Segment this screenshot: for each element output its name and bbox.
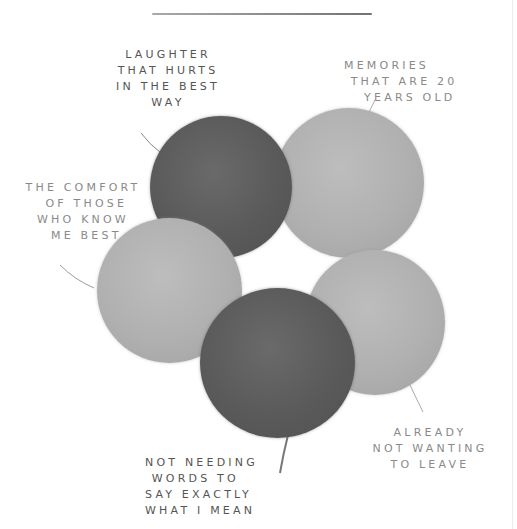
leader-line-comfort [60, 265, 94, 288]
label-memories: MEMORIES THAT ARE 20 YEARS OLD [344, 58, 457, 106]
leader-line-laughter [141, 133, 160, 152]
circle-memories [274, 108, 424, 258]
label-leave: ALREADY NOT WANTING TO LEAVE [370, 425, 490, 473]
leader-line-leave [410, 385, 423, 412]
leader-line-words [280, 435, 288, 473]
label-comfort: THE COMFORT OF THOSE WHO KNOW ME BEST [18, 180, 148, 244]
circle-words [200, 288, 355, 438]
label-words: NOT NEEDING WORDS TO SAY EXACTLY WHAT I … [145, 455, 258, 519]
label-laughter: LAUGHTER THAT HURTS IN THE BEST WAY [108, 47, 228, 111]
